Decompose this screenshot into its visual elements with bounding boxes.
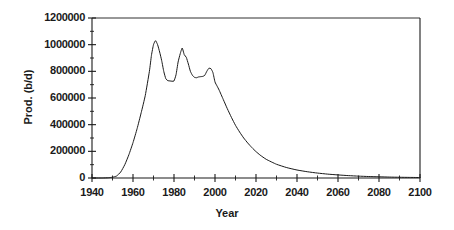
y-tick-label: 200000 (50, 144, 85, 156)
x-tick-label: 2100 (395, 186, 445, 198)
y-tick-label: 800000 (50, 64, 85, 76)
y-tick-label: 1200000 (44, 11, 85, 23)
production-forecast-chart: 020000040000060000080000010000001200000 … (0, 0, 454, 230)
y-tick-label: 400000 (50, 118, 85, 130)
y-tick-label: 600000 (50, 91, 85, 103)
y-tick-label: 1000000 (44, 38, 85, 50)
y-axis-title: Prod. (b/d) (22, 47, 34, 147)
x-axis-title: Year (0, 207, 454, 219)
y-tick-label: 0 (79, 171, 85, 183)
production-line-series (92, 41, 420, 178)
